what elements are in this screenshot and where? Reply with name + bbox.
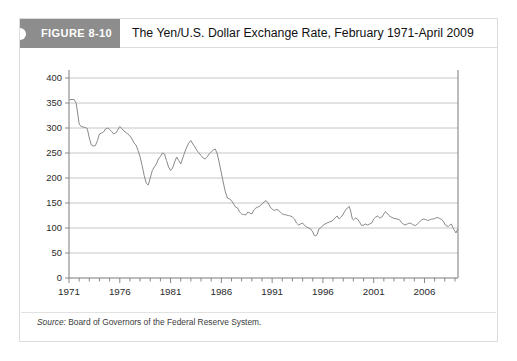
svg-text:1981: 1981 (160, 286, 182, 297)
figure-header: FIGURE 8-10 The Yen/U.S. Dollar Exchange… (20, 19, 497, 48)
figure-number-badge: FIGURE 8-10 (20, 19, 120, 48)
source-separator (21, 312, 496, 313)
svg-text:350: 350 (46, 97, 62, 108)
svg-text:100: 100 (46, 222, 62, 233)
svg-text:300: 300 (46, 122, 62, 133)
figure-number-label: FIGURE 8-10 (41, 27, 112, 39)
y-axis-tick-labels: 050100150200250300350400 (46, 72, 62, 283)
svg-text:2001: 2001 (363, 286, 385, 297)
chart-plot-area: 050100150200250300350400 197119761981198… (20, 48, 499, 312)
line-chart-svg: 050100150200250300350400 197119761981198… (20, 48, 499, 312)
svg-text:1991: 1991 (261, 286, 283, 297)
svg-text:1971: 1971 (58, 286, 80, 297)
figure-title: The Yen/U.S. Dollar Exchange Rate, Febru… (132, 19, 474, 48)
gridlines-group (65, 78, 458, 278)
svg-text:150: 150 (46, 197, 62, 208)
svg-text:250: 250 (46, 147, 62, 158)
svg-text:50: 50 (52, 247, 62, 258)
badge-dot-icon (20, 28, 26, 40)
source-note: Source: Board of Governors of the Federa… (37, 317, 261, 327)
svg-text:1986: 1986 (210, 286, 232, 297)
svg-text:1996: 1996 (312, 286, 334, 297)
svg-text:2006: 2006 (414, 286, 436, 297)
x-axis-tick-labels: 19711976198119861991199620012006 (58, 286, 436, 297)
svg-text:400: 400 (46, 72, 62, 83)
exchange-rate-line (70, 100, 457, 237)
svg-text:0: 0 (57, 272, 62, 283)
svg-text:1976: 1976 (109, 286, 131, 297)
x-axis-minor-ticks (69, 278, 455, 283)
figure-container: FIGURE 8-10 The Yen/U.S. Dollar Exchange… (19, 18, 498, 342)
svg-text:200: 200 (46, 172, 62, 183)
source-label: Source: (37, 317, 66, 327)
source-text: Board of Governors of the Federal Reserv… (66, 317, 262, 327)
